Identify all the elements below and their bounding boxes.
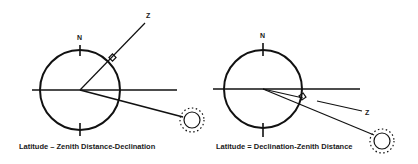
sun-icon-right	[370, 129, 394, 153]
zenith-line-left	[80, 23, 145, 90]
sun-icon-left	[180, 108, 204, 132]
sun-line-left	[80, 90, 183, 117]
caption-left: Latitude – Zenith Distance-Declination	[19, 142, 156, 151]
left-diagram	[32, 23, 204, 136]
caption-right: Latitude = Declination-Zenith Distance	[216, 142, 352, 151]
zenith-label-right: Z	[365, 109, 370, 116]
zenith-label-left: Z	[146, 12, 151, 19]
north-label-right: N	[260, 32, 265, 39]
zenith-leader-right	[317, 101, 362, 111]
north-label-left: N	[77, 34, 82, 41]
sun-line-right	[263, 89, 374, 135]
right-diagram	[213, 43, 394, 153]
observer-marker-left	[109, 54, 116, 61]
latitude-diagrams: N Z Latitude – Zenith Distance-Declinati…	[0, 0, 418, 164]
